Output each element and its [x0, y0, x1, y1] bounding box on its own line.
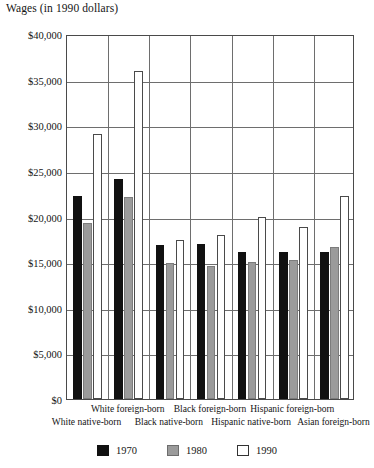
gridline	[67, 82, 353, 83]
legend-label: 1990	[256, 445, 277, 456]
bar-1990-hispanic-native-born	[258, 217, 267, 399]
y-tick-label: $10,000	[0, 303, 62, 314]
bar-1980-black-foreign-born	[207, 266, 216, 399]
bar-1970-hispanic-foreign-born	[279, 252, 288, 399]
bar-1970-white-native-born	[73, 196, 82, 399]
bar-1980-black-native-born	[166, 263, 175, 399]
gridline	[67, 173, 353, 174]
group-separator	[273, 36, 274, 399]
bar-1990-white-native-born	[93, 134, 102, 399]
bar-1970-asian-foreign-born	[320, 252, 329, 399]
bar-1990-black-foreign-born	[217, 235, 226, 399]
group-separator	[232, 36, 233, 399]
wages-bar-chart: Wages (in 1990 dollars) $40,000$35,000$3…	[0, 0, 374, 468]
x-axis-label-hispanic-foreign-born: Hispanic foreign-born	[250, 404, 334, 414]
y-tick-label: $15,000	[0, 258, 62, 269]
white-square-icon	[237, 445, 249, 456]
bar-1980-hispanic-foreign-born	[289, 260, 298, 399]
group-separator	[149, 36, 150, 399]
y-tick-label: $30,000	[0, 121, 62, 132]
gridline	[67, 127, 353, 128]
y-tick-label: $25,000	[0, 166, 62, 177]
chart-title: Wages (in 1990 dollars)	[6, 2, 118, 14]
x-axis-label-black-foreign-born: Black foreign-born	[174, 404, 247, 414]
bar-1970-white-foreign-born	[114, 179, 123, 399]
bar-1970-black-native-born	[156, 245, 165, 399]
bar-1970-black-foreign-born	[197, 244, 206, 399]
bar-1980-asian-foreign-born	[330, 247, 339, 399]
y-tick-label: $20,000	[0, 212, 62, 223]
x-axis-label-asian-foreign-born: Asian foreign-born	[297, 417, 370, 427]
gridline	[67, 219, 353, 220]
legend-item-1980[interactable]: 1980	[167, 445, 207, 456]
black-square-icon	[97, 445, 109, 456]
legend-item-1990[interactable]: 1990	[237, 445, 277, 456]
y-tick-label: $35,000	[0, 75, 62, 86]
bar-1990-white-foreign-born	[134, 71, 143, 400]
bar-1990-asian-foreign-born	[340, 196, 349, 399]
y-tick-label: $40,000	[0, 30, 62, 41]
bar-1990-black-native-born	[176, 240, 185, 399]
bar-1980-white-foreign-born	[124, 197, 133, 399]
group-separator	[314, 36, 315, 399]
legend-item-1970[interactable]: 1970	[97, 445, 137, 456]
legend-label: 1970	[116, 445, 137, 456]
x-axis-label-white-foreign-born: White foreign-born	[91, 404, 165, 414]
x-axis-label-hispanic-native-born: Hispanic native-born	[211, 417, 291, 427]
gray-square-icon	[167, 445, 179, 456]
y-tick-label: $5,000	[0, 349, 62, 360]
bar-1980-white-native-born	[83, 223, 92, 399]
group-separator	[108, 36, 109, 399]
bar-1970-hispanic-native-born	[238, 252, 247, 399]
bar-1980-hispanic-native-born	[248, 262, 257, 399]
x-axis-label-black-native-born: Black native-born	[135, 417, 203, 427]
plot-area	[66, 35, 354, 400]
group-separator	[190, 36, 191, 399]
chart-legend: 197019801990	[0, 445, 374, 456]
x-axis-label-white-native-born: White native-born	[52, 417, 121, 427]
legend-label: 1980	[186, 445, 207, 456]
bar-1990-hispanic-foreign-born	[299, 227, 308, 399]
y-tick-label: $0	[0, 395, 62, 406]
